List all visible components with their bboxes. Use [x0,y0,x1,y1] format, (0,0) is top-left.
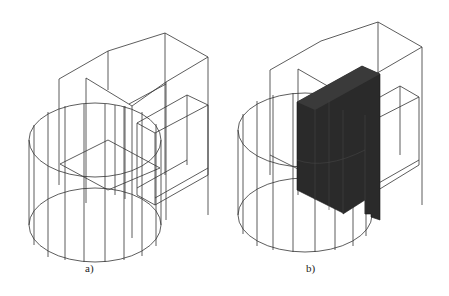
caption-a: a) [85,262,94,274]
wireframe-drawing-b [225,0,449,296]
panel-a-wireframe: a) [0,0,225,296]
wireframe-drawing-a [0,0,225,296]
shaded-intersection-solid [297,66,380,220]
caption-b: b) [306,262,315,274]
panel-b-shaded: b) [225,0,449,296]
